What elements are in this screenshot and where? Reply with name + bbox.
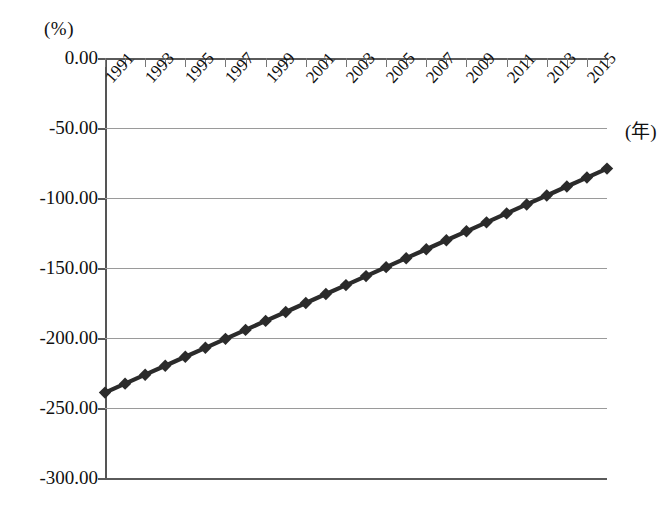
y-axis-tick	[98, 478, 105, 480]
x-axis-tick-label: 2005	[382, 49, 420, 88]
y-axis-tick-label: -300.00	[6, 467, 98, 489]
x-axis-tick-label: 2003	[342, 49, 380, 88]
y-axis-tick	[98, 58, 105, 60]
data-point-marker	[601, 162, 613, 174]
data-point-marker	[440, 234, 452, 246]
x-axis-unit-label: (年)	[625, 116, 657, 143]
data-point-marker	[159, 360, 171, 372]
data-point-marker	[219, 333, 231, 345]
y-axis-tick	[98, 128, 105, 130]
data-point-marker	[280, 306, 292, 318]
x-axis-tick-label: 1999	[262, 49, 300, 88]
x-axis-tick-label: 2015	[583, 49, 621, 88]
x-axis-tick-label: 2013	[543, 49, 581, 88]
series-line	[105, 169, 607, 393]
data-point-marker	[199, 342, 211, 354]
gridline	[105, 478, 607, 480]
data-point-marker	[360, 270, 372, 282]
data-point-marker	[400, 252, 412, 264]
x-axis-tick-label: 1991	[101, 49, 139, 88]
data-point-marker	[581, 171, 593, 183]
data-point-marker	[541, 189, 553, 201]
data-point-marker	[420, 243, 432, 255]
y-axis-tick-label: -200.00	[6, 327, 98, 349]
x-axis-tick-label: 1993	[141, 49, 179, 88]
y-axis-tick	[98, 408, 105, 410]
data-point-marker	[380, 261, 392, 273]
data-point-marker	[119, 377, 131, 389]
x-axis-tick-label: 2007	[422, 49, 460, 88]
data-point-marker	[139, 368, 151, 380]
y-axis-tick-label: 0.00	[6, 47, 98, 69]
data-point-marker	[320, 288, 332, 300]
data-point-marker	[520, 198, 532, 210]
data-point-marker	[480, 216, 492, 228]
y-axis-tick-label: -50.00	[6, 117, 98, 139]
data-point-marker	[500, 207, 512, 219]
y-axis-tick-label: -150.00	[6, 257, 98, 279]
data-point-marker	[99, 386, 111, 398]
data-point-marker	[239, 324, 251, 336]
y-axis-tick-label: -100.00	[6, 187, 98, 209]
y-axis-tick	[98, 198, 105, 200]
x-axis-tick-labels: 1991199319951997199920012003200520072009…	[105, 74, 642, 134]
data-point-marker	[300, 297, 312, 309]
data-point-marker	[259, 315, 271, 327]
data-point-marker	[561, 180, 573, 192]
y-axis-tick	[98, 338, 105, 340]
y-axis-tick-labels: 0.00-50.00-100.00-150.00-200.00-250.00-3…	[0, 0, 98, 514]
data-point-marker	[460, 225, 472, 237]
x-axis-tick-label: 2011	[503, 49, 540, 87]
y-axis-tick	[98, 268, 105, 270]
y-axis-tick-label: -250.00	[6, 397, 98, 419]
data-point-marker	[340, 279, 352, 291]
data-point-marker	[179, 351, 191, 363]
x-axis-tick-label: 2001	[302, 49, 340, 88]
